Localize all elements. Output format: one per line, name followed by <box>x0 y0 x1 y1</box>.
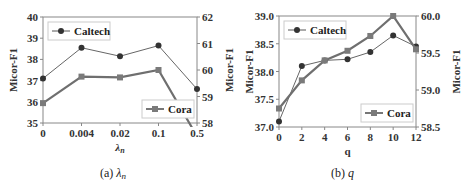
y-tick-right: 60.0 <box>421 10 441 22</box>
svg-text:Cora: Cora <box>168 103 192 115</box>
y-tick-left: 40 <box>27 11 39 23</box>
data-point-caltech <box>156 43 162 49</box>
x-tick: 12 <box>411 131 423 143</box>
y-tick-left: 35 <box>27 117 39 129</box>
data-point-caltech <box>299 63 305 69</box>
data-point-cora <box>79 74 85 80</box>
data-point-cora <box>156 67 162 73</box>
y-tick-right: 62 <box>202 11 214 23</box>
data-point-caltech <box>276 118 282 124</box>
y-tick-right: 59 <box>202 91 214 103</box>
x-tick: 2 <box>299 131 305 143</box>
data-point-cora <box>390 13 396 19</box>
data-point-cora <box>413 46 419 52</box>
data-point-caltech <box>117 53 123 59</box>
y-tick-right: 59.0 <box>421 84 441 96</box>
y-tick-left: 39.0 <box>255 10 275 22</box>
x-tick: 0 <box>40 127 46 139</box>
y-tick-left: 38.5 <box>255 38 275 50</box>
legend-cora: Cora <box>361 104 413 122</box>
x-tick: 0.5 <box>190 127 204 139</box>
svg-text:Cora: Cora <box>387 107 411 119</box>
y-tick-left: 36 <box>27 96 39 108</box>
x-tick: 10 <box>388 131 400 143</box>
data-point-cora <box>367 33 373 39</box>
x-tick: 8 <box>368 131 374 143</box>
figure: 353637383940585960616200.0040.020.10.5Mi… <box>0 0 465 193</box>
svg-text:Caltech: Caltech <box>310 24 346 36</box>
y-tick-right: 61 <box>202 38 213 50</box>
caption-b: (b) q <box>331 166 354 180</box>
y-tick-right: 59.5 <box>421 47 441 59</box>
y-tick-left: 39 <box>27 32 39 44</box>
y-tick-right: 58.5 <box>421 121 441 133</box>
legend-caltech: Caltech <box>48 22 110 40</box>
data-point-cora <box>40 100 46 106</box>
data-point-caltech <box>367 49 373 55</box>
x-tick: 0.02 <box>110 127 130 139</box>
y-axis-label-left: Micor-F1 <box>243 49 255 93</box>
data-point-cora <box>276 106 282 112</box>
y-axis-label-right: Micor-F1 <box>223 48 235 92</box>
x-tick: 0.004 <box>69 127 94 139</box>
y-tick-left: 37.5 <box>255 93 275 105</box>
data-point-caltech <box>40 75 46 81</box>
series-line-caltech <box>43 46 197 89</box>
chart-b-q: 37.037.538.038.539.058.559.059.560.00246… <box>243 10 462 157</box>
legend-cora: Cora <box>142 100 194 118</box>
x-tick: 0 <box>276 131 282 143</box>
y-tick-left: 38.0 <box>255 66 275 78</box>
data-point-caltech <box>79 45 85 51</box>
svg-text:Caltech: Caltech <box>74 25 110 37</box>
legend-caltech: Caltech <box>284 21 346 39</box>
y-tick-right: 60 <box>202 64 214 76</box>
y-tick-left: 37.0 <box>255 121 275 133</box>
caption-a: (a) λn <box>100 166 127 181</box>
data-point-caltech <box>345 56 351 62</box>
data-point-caltech <box>194 86 200 92</box>
y-axis-label-left: Micor-F1 <box>7 48 19 92</box>
y-axis-label-right: Micor-F1 <box>450 49 462 93</box>
y-tick-left: 38 <box>27 53 39 65</box>
x-axis-label: λn <box>114 141 125 155</box>
x-tick: 4 <box>322 131 328 143</box>
data-point-caltech <box>390 32 396 38</box>
y-tick-left: 37 <box>27 75 39 87</box>
x-tick: 0.1 <box>152 127 166 139</box>
data-point-cora <box>322 57 328 63</box>
data-point-cora <box>299 77 305 83</box>
data-point-cora <box>117 74 123 80</box>
data-point-cora <box>345 48 351 54</box>
x-axis-label: q <box>344 145 351 157</box>
x-tick: 6 <box>345 131 351 143</box>
chart-a-lambda: 353637383940585960616200.0040.020.10.5Mi… <box>7 11 235 155</box>
